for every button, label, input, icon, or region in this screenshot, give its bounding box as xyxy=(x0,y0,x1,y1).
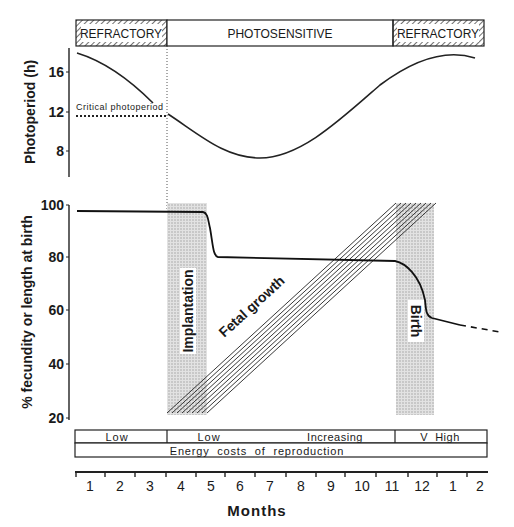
breeding-cycle-diagram: REFRACTORY PHOTOSENSITIVE REFRACTORY 16 … xyxy=(0,0,514,527)
implantation-label: Implantation xyxy=(180,269,196,352)
ytick-8: 8 xyxy=(56,143,64,159)
photoperiod-panel: 16 12 8 Photoperiod (h) Critical photope… xyxy=(22,48,475,177)
ytick-100: 100 xyxy=(41,197,65,213)
months-axis-label: Months xyxy=(227,502,286,519)
energy-increasing: Increasing xyxy=(307,431,363,443)
month-tick-12: 12 xyxy=(414,478,430,494)
month-tick-2b: 2 xyxy=(476,478,484,494)
month-tick-2: 2 xyxy=(116,478,124,494)
month-tick-11: 11 xyxy=(385,478,400,494)
month-tick-5: 5 xyxy=(207,478,215,494)
energy-caption: Energy costs of reproduction xyxy=(170,445,344,457)
critical-photoperiod-label: Critical photoperiod xyxy=(76,102,164,112)
ytick-16: 16 xyxy=(48,64,64,80)
ytick-80: 80 xyxy=(48,249,64,265)
month-tick-7: 7 xyxy=(266,478,274,494)
energy-v-high: V High xyxy=(420,431,460,443)
month-tick-6: 6 xyxy=(236,478,244,494)
energy-low-1: Low xyxy=(105,431,128,443)
month-tick-8: 8 xyxy=(297,478,305,494)
ytick-60: 60 xyxy=(48,302,64,318)
refractory-label-2: REFRACTORY xyxy=(397,27,479,41)
month-tick-1: 1 xyxy=(86,478,94,494)
month-tick-10: 10 xyxy=(354,478,370,494)
month-tick-1b: 1 xyxy=(449,478,457,494)
fecundity-projection xyxy=(460,325,500,332)
main-axis-label: % fecundity or length at birth xyxy=(19,215,35,409)
months-axis: 1 2 3 4 5 6 7 8 9 10 11 12 1 2 Months xyxy=(75,472,488,519)
month-tick-4: 4 xyxy=(177,478,185,494)
phase-bar: REFRACTORY PHOTOSENSITIVE REFRACTORY xyxy=(76,20,484,46)
ytick-20: 20 xyxy=(48,410,64,426)
main-panel: 100 80 60 40 20 % fecundity or length at… xyxy=(19,197,500,426)
ytick-40: 40 xyxy=(48,356,64,372)
birth-label: Birth xyxy=(408,305,424,338)
ytick-12: 12 xyxy=(48,104,64,120)
energy-cost-bar: Low Low Increasing V High Energy costs o… xyxy=(75,430,487,457)
photoperiod-axis-label: Photoperiod (h) xyxy=(22,60,38,164)
photoperiod-curve-early xyxy=(77,53,153,103)
month-tick-3: 3 xyxy=(146,478,154,494)
fetal-growth-band xyxy=(167,203,436,413)
refractory-label-1: REFRACTORY xyxy=(80,27,162,41)
photosensitive-label: PHOTOSENSITIVE xyxy=(227,27,332,41)
month-tick-9: 9 xyxy=(327,478,335,494)
energy-low-2: Low xyxy=(197,431,220,443)
photoperiod-curve xyxy=(168,55,475,158)
